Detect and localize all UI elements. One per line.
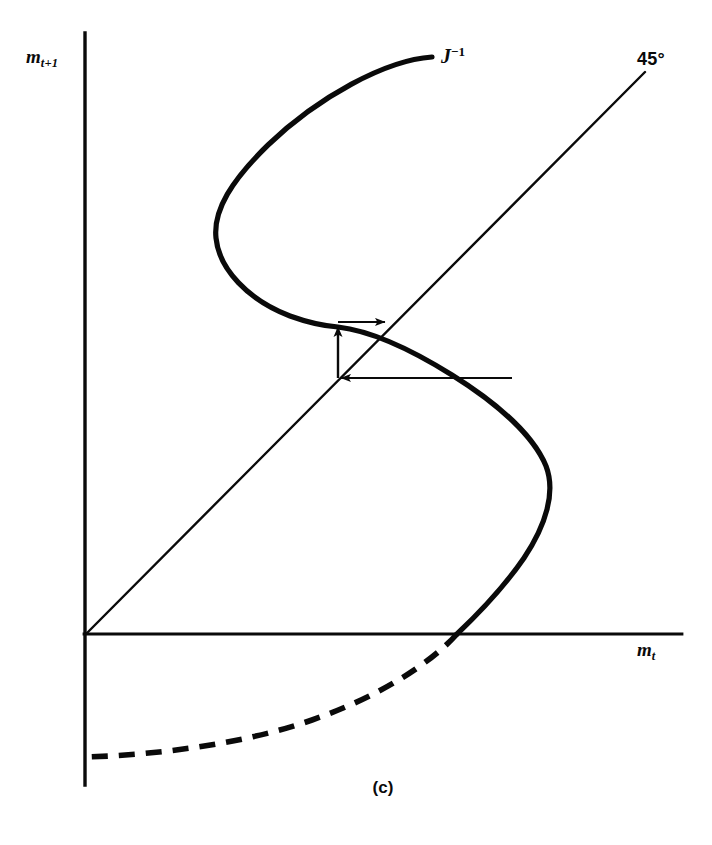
y-axis-label-base: m: [26, 46, 41, 67]
curve-label-exponent: −1: [451, 44, 465, 59]
inverse-map-curve: [216, 57, 550, 634]
inverse-map-curve-dashed: [86, 634, 457, 757]
curve-label-base: J: [441, 45, 451, 67]
forty-five-degree-line: [86, 72, 645, 634]
y-axis-label-subscript: t+1: [41, 56, 59, 70]
x-axis-label-subscript: t: [652, 649, 656, 663]
x-axis-label: mt: [637, 640, 655, 662]
phase-diagram-canvas: [0, 0, 712, 845]
curve-label-j-inverse: J−1: [441, 45, 465, 66]
forty-five-degree-label: 45°: [637, 50, 665, 68]
figure-panel-c: mt+1 mt J−1 45° (c): [0, 0, 712, 845]
y-axis-label: mt+1: [26, 47, 58, 69]
panel-label: (c): [343, 779, 423, 796]
x-axis-label-base: m: [637, 639, 652, 660]
